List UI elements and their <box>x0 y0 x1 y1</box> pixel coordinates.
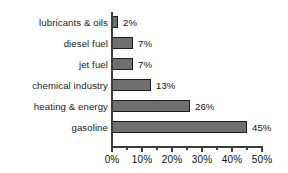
x-axis-tick-label: 40% <box>222 154 242 165</box>
bar <box>112 79 151 91</box>
category-label: diesel fuel <box>64 33 108 54</box>
bar <box>112 58 133 70</box>
x-axis-tick-label: 0% <box>105 154 120 165</box>
category-label: heating & energy <box>34 96 108 117</box>
chart-row: jet fuel 7% <box>0 54 288 75</box>
bar-value-label: 7% <box>138 54 152 75</box>
category-label: jet fuel <box>79 54 108 75</box>
bar <box>112 37 133 49</box>
bar-value-label: 45% <box>252 117 272 138</box>
chart-row: heating & energy 26% <box>0 96 288 117</box>
x-axis-tick-label: 20% <box>162 154 182 165</box>
chart-row: lubricants & oils 2% <box>0 12 288 33</box>
chart-row: gasoline 45% <box>0 117 288 138</box>
category-label: gasoline <box>71 117 108 138</box>
chart-row: diesel fuel 7% <box>0 33 288 54</box>
bar <box>112 16 118 28</box>
x-axis-tick-minor <box>186 147 188 150</box>
x-axis-tick-major <box>201 147 203 152</box>
x-axis-tick-label: 10% <box>132 154 152 165</box>
x-axis-tick-minor <box>246 147 248 150</box>
category-label: lubricants & oils <box>39 12 108 33</box>
y-axis-line <box>111 12 113 147</box>
bar-value-label: 2% <box>123 12 137 33</box>
x-axis-tick-label: 50% <box>252 154 272 165</box>
x-axis-tick-major <box>171 147 173 152</box>
bar-chart: lubricants & oils 2% diesel fuel 7% jet … <box>0 0 288 173</box>
x-axis-tick-minor <box>126 147 128 150</box>
bar-value-label: 26% <box>195 96 215 117</box>
x-axis-tick-major <box>111 147 113 152</box>
chart-plot-area: lubricants & oils 2% diesel fuel 7% jet … <box>0 12 288 138</box>
bar <box>112 121 247 133</box>
category-label: chemical industry <box>32 75 108 96</box>
bar-value-label: 7% <box>138 33 152 54</box>
x-axis-tick-label: 30% <box>192 154 212 165</box>
chart-row: chemical industry 13% <box>0 75 288 96</box>
x-axis-tick-minor <box>216 147 218 150</box>
x-axis-tick-minor <box>156 147 158 150</box>
x-axis-tick-major <box>141 147 143 152</box>
x-axis-tick-major <box>231 147 233 152</box>
x-axis-tick-major <box>261 147 263 152</box>
bar <box>112 100 190 112</box>
bar-value-label: 13% <box>156 75 176 96</box>
